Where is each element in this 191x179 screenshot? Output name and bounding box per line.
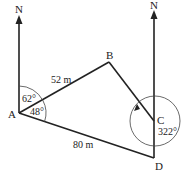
north-label-c: N: [150, 0, 158, 11]
north-label-a: N: [15, 4, 23, 15]
north-arrow-icon: [16, 15, 23, 24]
north-arrow-icon: [151, 10, 158, 19]
point-label-c: C: [157, 115, 164, 126]
angle-label-48: 48°: [30, 107, 44, 117]
segment-ad: [19, 113, 154, 158]
distance-ab: 52 m: [51, 75, 71, 85]
bearings-diagram: N N A B C D 52 m 80 m 62° 48° 322°: [0, 0, 191, 179]
angle-label-322: 322°: [158, 127, 177, 137]
bearing-arrow-icon: [134, 104, 140, 111]
angle-label-62: 62°: [22, 94, 36, 104]
point-label-b: B: [106, 50, 113, 61]
point-label-a: A: [8, 109, 16, 120]
bearing-circle: [130, 96, 180, 146]
diagram-lines: [0, 0, 191, 179]
distance-ad: 80 m: [73, 140, 93, 150]
point-label-d: D: [155, 161, 163, 172]
